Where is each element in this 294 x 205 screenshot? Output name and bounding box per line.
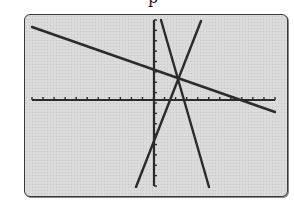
y-axis: [154, 20, 157, 186]
graph-plot: [0, 0, 294, 205]
